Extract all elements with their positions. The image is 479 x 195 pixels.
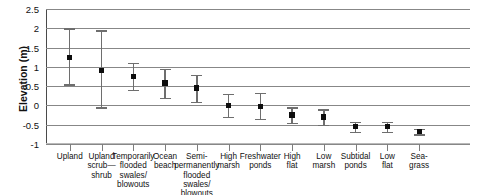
x-axis-tick [165,144,166,151]
x-axis-tick [419,144,420,151]
data-point-marker [226,103,231,108]
error-bar-cap-lower [160,98,171,99]
data-point-marker [67,55,72,60]
data-point-marker [194,85,199,90]
y-axis-tick-label: 2.5 [26,4,39,15]
error-bar-cap-lower [318,125,329,126]
error-bar-cap-upper [160,69,171,70]
error-bar-cap-upper [128,63,139,64]
error-bar-cap-lower [64,84,75,85]
x-axis-tick [70,144,71,151]
error-bar-cap-upper [350,122,361,123]
data-point-marker [385,124,390,129]
gridline [46,48,470,49]
x-axis-tick [387,144,388,151]
error-bar-cap-lower [414,134,425,135]
data-point-marker [353,124,358,129]
data-point-marker [321,114,326,119]
y-axis-tick-labels: 2.521.510.50-0.5-1 [0,0,44,160]
y-axis-tick-label: 1.5 [26,42,39,53]
x-axis-category-label: Sea-grass [396,152,442,171]
x-axis-tick [324,144,325,151]
error-bar-cap-upper [191,75,202,76]
x-axis-tick [133,144,134,151]
gridline [46,86,470,87]
error-bar-cap-lower [96,107,107,108]
error-bar-cap-upper [64,28,75,29]
gridline [46,125,470,126]
x-axis-tick [102,144,103,151]
error-bar-cap-lower [382,132,393,133]
data-point-marker [258,104,263,109]
error-bar-cap-upper [382,122,393,123]
data-point-marker [99,68,104,73]
error-bar-cap-upper [96,30,107,31]
x-axis-tick [356,144,357,151]
error-bar-cap-upper [255,93,266,94]
x-axis-tick [292,144,293,151]
error-bar-cap-upper [223,94,234,95]
plot-area [46,9,470,144]
y-axis-tick-label: -1 [31,139,39,150]
error-bar-cap-upper [287,107,298,108]
data-point-marker [131,74,136,79]
error-bar-cap-lower [287,123,298,124]
x-axis-category-labels: UplandUplandscrub—shrubTemporarilyfloode… [46,152,470,195]
y-axis-tick-label: 1 [34,61,39,72]
y-axis-tick-label: -0.5 [23,119,39,130]
y-axis-tick-label: 0 [34,100,39,111]
gridline [46,9,470,10]
x-axis-ticks [46,144,470,152]
data-point-marker [417,129,422,134]
error-bar-cap-lower [223,117,234,118]
y-axis-tick-label: 0.5 [26,81,39,92]
data-point-marker [162,80,167,85]
chart-figure: Elevation (m) 2.521.510.50-0.5-1 UplandU… [0,0,479,195]
error-bar-cap-lower [255,119,266,120]
x-axis-tick [197,144,198,151]
x-axis-tick [229,144,230,151]
x-axis-tick [260,144,261,151]
data-point-marker [289,112,294,117]
gridline [46,67,470,68]
error-bar-cap-upper [318,109,329,110]
error-bar-cap-lower [191,102,202,103]
error-bar-cap-lower [350,132,361,133]
gridline [46,28,470,29]
y-axis-tick-label: 2 [34,23,39,34]
error-bar-cap-lower [128,90,139,91]
